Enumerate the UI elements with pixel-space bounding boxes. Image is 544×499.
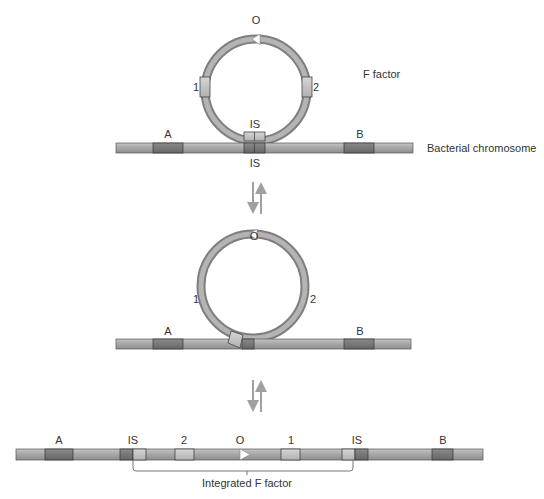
bacterial-chromosome: [116, 339, 411, 349]
gene-a: [45, 449, 73, 460]
segment-1-label: 1: [193, 81, 199, 93]
is-right-dark: [355, 449, 368, 460]
bacterial-chromosome: [116, 143, 413, 153]
gene-b: [344, 339, 374, 349]
segment-2-label: 2: [181, 434, 187, 446]
origin-label: O: [250, 230, 259, 242]
segment-2-label: 2: [313, 81, 319, 93]
panel-2-recombination: O 1 2 A B: [116, 229, 411, 349]
segment-1: [281, 449, 300, 460]
is-left-label: IS: [128, 434, 138, 446]
gene-a-label: A: [55, 434, 63, 446]
gene-a: [153, 143, 183, 153]
gene-b-label: B: [356, 325, 363, 337]
is-right-label: IS: [352, 434, 362, 446]
reversible-arrows-icon: [247, 182, 267, 214]
chromosome-label: Bacterial chromosome: [427, 142, 536, 154]
is-right-light: [342, 449, 355, 460]
plasmid-segment-1: [200, 77, 210, 97]
gene-a-label: A: [164, 325, 172, 337]
segment-1-label: 1: [193, 293, 199, 305]
plasmid-is-label: IS: [250, 118, 260, 130]
gene-b-label: B: [356, 128, 363, 140]
panel-3-integrated: A IS 2 O 1 IS B Integrated F factor: [16, 434, 483, 489]
gene-b: [432, 449, 453, 460]
origin-label: O: [236, 434, 245, 446]
integrated-f-factor-bracket: [133, 460, 353, 475]
f-factor-plasmid-paired: [201, 229, 305, 338]
segment-2: [175, 449, 194, 460]
segment-2-label: 2: [310, 293, 316, 305]
is-left-light: [133, 449, 146, 460]
gene-a: [153, 339, 183, 349]
chromosome-is-element: [242, 339, 254, 349]
gene-b-label: B: [439, 434, 446, 446]
segment-1-label: 1: [288, 434, 294, 446]
is-left-dark: [120, 449, 133, 460]
plasmid-label: F factor: [363, 68, 401, 80]
gene-b: [344, 143, 374, 153]
f-factor-integration-diagram: O 1 2 F factor IS A B IS Bacterial chrom…: [0, 0, 544, 499]
chromosome-with-integrated-f-factor: [16, 449, 483, 460]
gene-a-label: A: [164, 128, 172, 140]
panel-1-free-f-factor: O 1 2 F factor IS A B IS Bacterial chrom…: [116, 14, 536, 169]
chromosome-is-label: IS: [250, 157, 260, 169]
origin-label: O: [252, 14, 261, 26]
reversible-arrows-icon: [247, 380, 267, 412]
integrated-f-factor-label: Integrated F factor: [202, 477, 292, 489]
plasmid-segment-2: [302, 77, 312, 97]
